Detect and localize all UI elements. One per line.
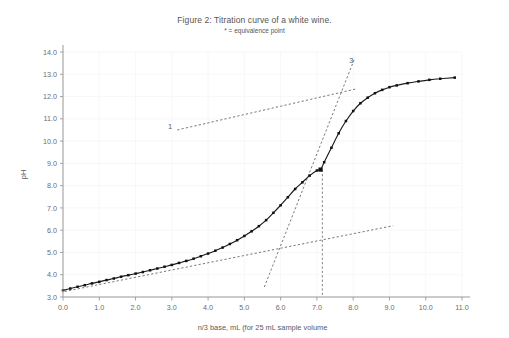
titration-chart-svg: 3.04.05.06.07.08.09.010.011.012.013.014.… <box>0 0 509 338</box>
data-point-marker <box>69 287 72 290</box>
data-point-marker <box>142 271 145 274</box>
gridlines <box>63 52 462 297</box>
data-point-marker <box>345 120 348 123</box>
y-tick-label: 13.0 <box>43 70 57 79</box>
y-tick-label: 7.0 <box>47 204 57 213</box>
data-point-marker <box>105 279 108 282</box>
tangent-lines-group <box>65 58 393 292</box>
data-point-marker <box>287 196 290 199</box>
data-point-marker <box>258 225 261 228</box>
x-tick-label: 9.0 <box>384 303 394 312</box>
data-point-marker <box>428 79 431 82</box>
tick-labels: 3.04.05.06.07.08.09.010.011.012.013.014.… <box>43 48 469 312</box>
y-tick-label: 8.0 <box>47 181 57 190</box>
x-tick-label: 1.0 <box>94 303 104 312</box>
x-axis-title: n/3 base, mL (for 25 mL sample volume <box>198 323 328 332</box>
data-point-marker <box>171 264 174 267</box>
data-point-marker <box>294 188 297 191</box>
line-2-lower-extrapolation <box>65 226 393 292</box>
data-point-marker <box>308 174 311 177</box>
x-tick-label: 7.0 <box>312 303 322 312</box>
y-axis-title: pH <box>19 170 28 179</box>
data-point-marker <box>330 147 333 150</box>
data-point-marker <box>337 132 340 135</box>
y-tick-label: 11.0 <box>44 114 57 123</box>
data-point-marker <box>200 255 203 257</box>
data-point-marker <box>417 80 420 83</box>
data-point-marker <box>91 282 94 285</box>
data-point-marker <box>279 204 282 207</box>
data-point-marker <box>250 230 253 233</box>
data-point-marker <box>439 77 442 80</box>
x-tick-label: 10.0 <box>419 303 433 312</box>
y-tick-label: 14.0 <box>43 48 57 57</box>
data-point-marker <box>265 219 268 222</box>
data-point-marker <box>359 102 362 105</box>
x-tick-label: 4.0 <box>203 303 213 312</box>
tangent-line-label-1: 1 <box>168 122 172 131</box>
data-point-marker <box>388 86 391 89</box>
equivalence-point-marker <box>318 168 322 172</box>
data-point-marker <box>366 96 369 99</box>
data-point-marker <box>207 252 210 255</box>
data-point-marker <box>98 281 101 284</box>
titration-curve-line <box>63 78 455 291</box>
data-point-marker <box>221 246 224 249</box>
tangent-line-label-3: 3 <box>349 56 353 65</box>
data-point-marker <box>214 249 217 252</box>
data-point-marker <box>395 84 398 87</box>
data-point-marker <box>374 92 377 95</box>
y-tick-label: 4.0 <box>47 270 57 279</box>
figure-container: Figure 2: Titration curve of a white win… <box>0 0 509 338</box>
y-tick-label: 3.0 <box>47 293 57 302</box>
data-point-marker <box>127 274 130 277</box>
x-tick-label: 5.0 <box>239 303 249 312</box>
data-point-marker <box>120 275 123 278</box>
y-tick-label: 6.0 <box>47 226 57 235</box>
titration-curve-group <box>63 78 455 291</box>
data-point-marker <box>149 269 152 272</box>
data-point-marker <box>301 181 304 184</box>
data-point-marker <box>185 260 188 263</box>
y-tick-label: 9.0 <box>47 159 57 168</box>
data-point-marker <box>76 286 79 289</box>
y-tick-label: 12.0 <box>43 92 57 101</box>
data-point-marker <box>406 82 409 85</box>
data-point-marker <box>236 239 239 242</box>
data-point-marker <box>243 235 246 238</box>
x-tick-label: 11.0 <box>455 303 468 312</box>
data-point-marker <box>323 161 326 164</box>
data-point-marker <box>113 277 116 280</box>
data-point-marker <box>229 243 232 246</box>
line-annotations: 13 <box>168 56 354 131</box>
data-point-marker <box>163 265 166 268</box>
y-tick-label: 10.0 <box>43 137 57 146</box>
y-tick-label: 5.0 <box>47 248 57 257</box>
data-point-marker <box>381 89 384 92</box>
data-point-markers <box>62 76 456 291</box>
x-tick-label: 2.0 <box>131 303 141 312</box>
data-point-marker <box>316 169 319 172</box>
x-tick-label: 3.0 <box>167 303 177 312</box>
data-point-marker <box>178 262 181 265</box>
x-tick-label: 0.0 <box>58 303 68 312</box>
data-point-marker <box>84 284 87 287</box>
data-point-marker <box>352 110 355 113</box>
data-point-marker <box>156 267 159 270</box>
x-tick-label: 6.0 <box>276 303 286 312</box>
plot-area: 3.04.05.06.07.08.09.010.011.012.013.014.… <box>0 0 509 338</box>
data-point-marker <box>192 257 195 260</box>
line-1-upper-extrapolation <box>177 89 357 130</box>
data-point-marker <box>454 76 457 79</box>
data-point-marker <box>134 272 137 275</box>
x-tick-label: 8.0 <box>348 303 358 312</box>
data-point-marker <box>272 212 275 215</box>
